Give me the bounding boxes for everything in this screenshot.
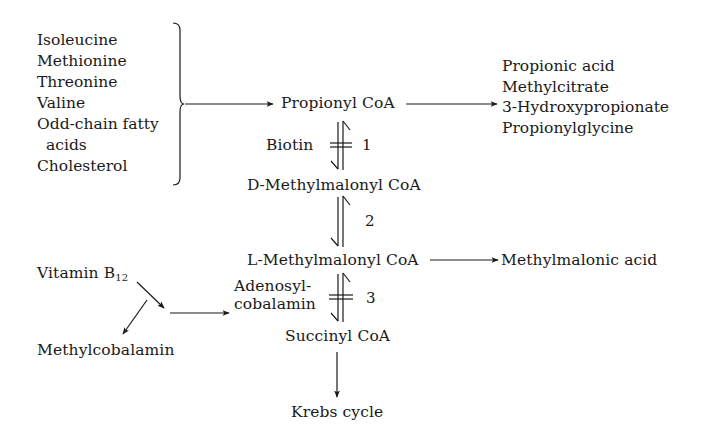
node-l-methylmalonyl-coa: L-Methylmalonyl CoA bbox=[247, 251, 419, 270]
node-succinyl-coa: Succinyl CoA bbox=[285, 327, 390, 346]
vitamin-b12-base: Vitamin B bbox=[37, 264, 115, 282]
arrow-to-methylcobalamin bbox=[123, 300, 147, 334]
equilibrium-arrow-1 bbox=[330, 121, 352, 170]
stereo-prefix-d: D bbox=[247, 176, 260, 194]
cofactor-biotin: Biotin bbox=[266, 136, 313, 155]
precursor-acids: acids bbox=[37, 135, 159, 156]
step-number-1: 1 bbox=[362, 136, 372, 154]
precursor-list: Isoleucine Methionine Threonine Valine O… bbox=[37, 30, 159, 177]
step-number-2: 2 bbox=[365, 212, 375, 230]
adenosylcobalamin-line2: cobalamin bbox=[234, 295, 316, 313]
node-vitamin-b12: Vitamin B12 bbox=[37, 264, 128, 287]
vitamin-b12-subscript: 12 bbox=[115, 272, 128, 283]
node-methylmalonic-acid: Methylmalonic acid bbox=[501, 251, 657, 270]
equilibrium-arrow-3 bbox=[329, 273, 353, 322]
product-3-hydroxypropionate: 3-Hydroxypropionate bbox=[502, 97, 669, 118]
node-d-methylmalonyl-coa: D-Methylmalonyl CoA bbox=[247, 176, 421, 195]
precursor-valine: Valine bbox=[37, 93, 159, 114]
node-propionyl-coa: Propionyl CoA bbox=[281, 94, 395, 113]
product-propionic-acid: Propionic acid bbox=[502, 56, 669, 77]
precursor-isoleucine: Isoleucine bbox=[37, 30, 159, 51]
l-methylmalonyl-name: -Methylmalonyl CoA bbox=[257, 251, 418, 269]
cofactor-adenosylcobalamin: Adenosyl- cobalamin bbox=[234, 277, 316, 313]
precursor-odd-chain-fatty: Odd-chain fatty bbox=[37, 114, 159, 135]
product-list: Propionic acid Methylcitrate 3-Hydroxypr… bbox=[502, 56, 669, 138]
node-krebs-cycle: Krebs cycle bbox=[291, 403, 383, 422]
d-methylmalonyl-name: -Methylmalonyl CoA bbox=[260, 176, 421, 194]
adenosylcobalamin-line1: Adenosyl- bbox=[234, 277, 316, 295]
precursor-methionine: Methionine bbox=[37, 51, 159, 72]
node-methylcobalamin: Methylcobalamin bbox=[37, 341, 174, 360]
arrow-b12-diagonal bbox=[137, 282, 164, 308]
equilibrium-arrow-2 bbox=[331, 196, 350, 247]
stereo-prefix-l: L bbox=[247, 251, 257, 269]
product-propionylglycine: Propionylglycine bbox=[502, 118, 669, 139]
precursor-cholesterol: Cholesterol bbox=[37, 156, 159, 177]
step-number-3: 3 bbox=[366, 289, 376, 307]
brace-icon bbox=[173, 23, 184, 185]
product-methylcitrate: Methylcitrate bbox=[502, 77, 669, 98]
precursor-threonine: Threonine bbox=[37, 72, 159, 93]
